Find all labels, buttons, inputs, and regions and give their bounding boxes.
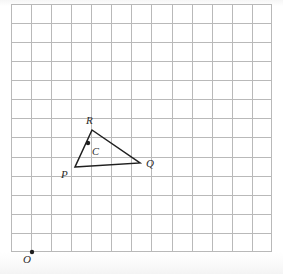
vertex-label-r: R — [86, 115, 93, 126]
figure-canvas: R P Q C O — [0, 0, 283, 274]
geometry-figure — [0, 0, 283, 274]
triangle-pqr — [75, 130, 140, 167]
origin-label-o: O — [23, 254, 31, 265]
point-c-dot — [86, 141, 90, 145]
vertex-label-q: Q — [146, 158, 154, 169]
point-label-c: C — [92, 146, 99, 157]
vertex-label-p: P — [61, 169, 68, 180]
